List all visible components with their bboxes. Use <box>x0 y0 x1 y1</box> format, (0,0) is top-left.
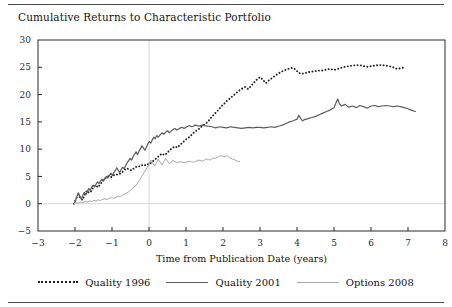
legend-label: Quality 1996 <box>85 277 150 288</box>
legend-label: Quality 2001 <box>215 277 280 288</box>
series-line-options-2008 <box>74 156 240 204</box>
y-tick-label: 25 <box>20 62 32 72</box>
x-tick-label: 8 <box>442 238 448 248</box>
x-axis-title: Time from Publication Date (years) <box>156 253 327 264</box>
x-tick-label: 3 <box>257 238 263 248</box>
y-tick-label: 30 <box>20 35 32 45</box>
figure-container: Cumulative Returns to Characteristic Por… <box>0 0 452 307</box>
y-tick-label: 0 <box>25 199 31 209</box>
x-tick-label: 7 <box>405 238 411 248</box>
legend-swatch-solid-light <box>297 282 339 283</box>
chart-plot-area: −5051015202530−3−2−1012345678Time from P… <box>0 0 452 307</box>
y-tick-label: 15 <box>20 117 32 127</box>
plot-frame <box>38 40 445 231</box>
chart-legend: Quality 1996Quality 2001Options 2008 <box>0 272 452 292</box>
legend-entry-quality-2001[interactable]: Quality 2001 <box>166 277 280 288</box>
legend-entry-options-2008[interactable]: Options 2008 <box>297 277 414 288</box>
legend-swatch-dotted <box>38 281 78 283</box>
x-tick-label: 4 <box>294 238 300 248</box>
x-tick-label: −1 <box>105 238 118 248</box>
legend-label: Options 2008 <box>346 277 414 288</box>
y-tick-label: 10 <box>20 144 32 154</box>
x-tick-label: 1 <box>183 238 189 248</box>
y-tick-label: 5 <box>25 172 31 182</box>
x-tick-label: −3 <box>31 238 45 248</box>
x-tick-label: 0 <box>146 238 152 248</box>
x-tick-label: 5 <box>331 238 337 248</box>
y-tick-label: −5 <box>18 226 32 236</box>
x-tick-label: 2 <box>220 238 226 248</box>
y-tick-label: 20 <box>20 90 32 100</box>
legend-entry-quality-1996[interactable]: Quality 1996 <box>38 277 150 288</box>
x-tick-label: −2 <box>68 238 81 248</box>
x-tick-label: 6 <box>368 238 374 248</box>
series-line-quality-1996 <box>74 65 404 204</box>
series-line-quality-2001 <box>74 99 416 204</box>
legend-swatch-solid-dark <box>166 282 208 283</box>
